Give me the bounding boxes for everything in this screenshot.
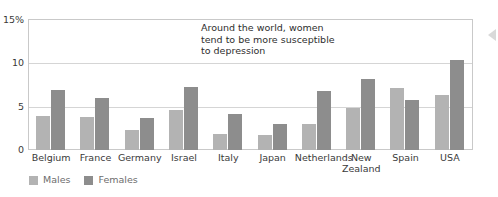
bar-male [169,110,183,150]
bar-group [162,20,206,150]
bar-female [140,118,154,150]
bar-male [346,108,360,150]
x-axis-label: New Zealand [339,152,383,174]
x-axis-label: Netherlands [295,152,339,163]
x-axis-label: Belgium [29,152,73,163]
legend-label-females: Females [98,175,137,185]
bar-female [317,91,331,150]
bar-male [36,116,50,150]
x-axis-label: Israel [162,152,206,163]
chart-legend: Males Females [29,175,138,185]
bar-group [428,20,472,150]
legend-label-males: Males [43,175,70,185]
bar-male [213,134,227,150]
x-axis-label: Italy [206,152,250,163]
x-axis-label: USA [428,152,472,163]
y-axis: 051015% [0,0,28,160]
bar-female [51,90,65,150]
bar-female [184,87,198,150]
bar-group [251,20,295,150]
bar-male [125,130,139,150]
bar-group [339,20,383,150]
bar-group [29,20,73,150]
bar-male [80,117,94,150]
bar-group [118,20,162,150]
left-arrow-icon [488,29,496,41]
x-axis-label: Germany [118,152,162,163]
legend-item-females: Females [84,175,137,185]
bar-female [361,79,375,150]
y-tick-label-0: 0 [18,145,24,154]
bar-female [273,124,287,150]
bar-male [258,135,272,150]
bar-female [228,114,242,150]
bar-group [295,20,339,150]
legend-swatch-females [84,176,93,185]
legend-swatch-males [29,176,38,185]
x-axis-label: Spain [383,152,427,163]
bar-group [383,20,427,150]
bar-female [405,100,419,150]
bar-group [73,20,117,150]
bar-male [435,95,449,150]
x-axis-label: France [73,152,117,163]
bar-male [390,88,404,150]
bars-layer [29,20,472,150]
y-tick-label-5: 5 [18,102,24,111]
legend-item-males: Males [29,175,70,185]
bar-male [302,124,316,150]
y-tick-label-15: 15% [3,15,24,24]
x-axis-label: Japan [251,152,295,163]
bar-group [206,20,250,150]
y-tick-label-10: 10 [12,58,24,67]
bar-female [450,60,464,150]
depression-by-gender-bar-chart: 051015% Around the world, women tend to … [0,0,498,197]
bar-female [95,98,109,150]
